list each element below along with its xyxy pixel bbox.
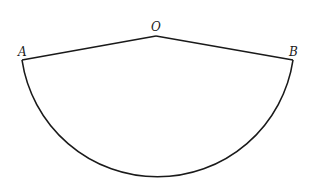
segment-oa (22, 36, 156, 60)
sector-diagram: O A B (0, 0, 309, 185)
label-a: A (18, 46, 27, 58)
label-o: O (151, 21, 161, 33)
segment-ob (156, 36, 293, 60)
arc-ab (22, 60, 293, 177)
label-b: B (289, 46, 298, 58)
